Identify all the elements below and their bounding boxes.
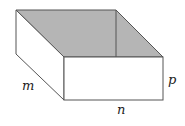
label-m: m [22, 78, 34, 93]
box-front-face [64, 57, 163, 100]
label-p: p [168, 72, 177, 87]
open-box-diagram: m n p [0, 0, 185, 126]
label-n: n [117, 102, 125, 117]
